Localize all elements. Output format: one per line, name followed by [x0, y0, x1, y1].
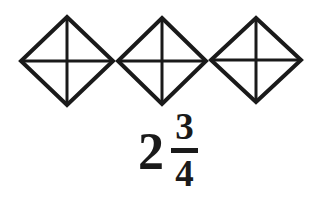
fraction-bar	[171, 148, 198, 153]
mixed-number-inner: 2 3 4	[138, 108, 198, 192]
diamond-shapes-row	[0, 0, 330, 112]
diamond-3-group	[211, 18, 301, 102]
whole-number: 2	[138, 126, 164, 178]
fraction-numerator: 3	[175, 108, 194, 146]
fraction-denominator: 4	[175, 155, 194, 193]
diamond-shape-3	[0, 0, 330, 112]
mixed-number-label: 2 3 4	[0, 108, 330, 205]
fraction: 3 4	[171, 108, 198, 192]
figure-root: 2 3 4	[0, 0, 330, 205]
